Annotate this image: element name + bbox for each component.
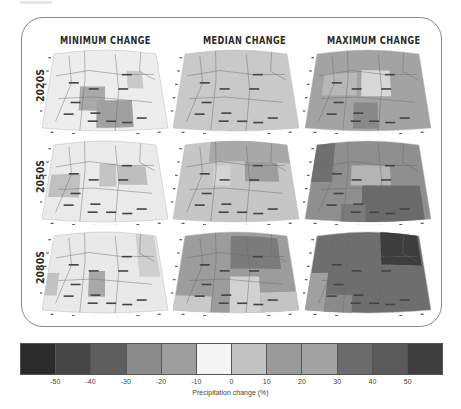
column-title: MINIMUM CHANGE [60,34,151,46]
colorbar-segment [162,344,197,374]
colorbar-tick-label: -10 [191,378,201,385]
colorbar-segment [338,344,373,374]
corner-mark [20,1,52,4]
map-panel [40,48,170,134]
colorbar-tick-label: -20 [156,378,166,385]
map-panel [40,230,170,316]
colorbar-segment [302,344,337,374]
colorbar-label: Precipitation change (%) [0,389,461,396]
colorbar-tick-label: -40 [85,378,95,385]
column-title: MEDIAN CHANGE [203,34,286,46]
colorbar-segment [267,344,302,374]
map-panel [303,139,433,225]
colorbar-tick-label: 0 [230,378,234,385]
colorbar-segment [232,344,267,374]
colorbar-segment [197,344,232,374]
colorbar-segment [408,344,442,374]
colorbar-tick-label: -50 [50,378,60,385]
map-panel [171,230,301,316]
colorbar-tick-label: 20 [298,378,306,385]
colorbar-tick-label: 30 [333,378,341,385]
map-panel [171,139,301,225]
colorbar-segment [91,344,126,374]
colorbar-tick-label: -30 [121,378,131,385]
colorbar-tick-label: 40 [369,378,377,385]
map-panel [40,139,170,225]
colorbar [20,343,443,375]
colorbar-segment [127,344,162,374]
map-panel [303,230,433,316]
map-panel [303,48,433,134]
column-title: MAXIMUM CHANGE [327,34,420,46]
colorbar-tick-label: 10 [263,378,271,385]
colorbar-tick-label: 50 [404,378,412,385]
colorbar-segment [21,344,56,374]
map-panel [171,48,301,134]
colorbar-segment [56,344,91,374]
colorbar-segment [373,344,408,374]
